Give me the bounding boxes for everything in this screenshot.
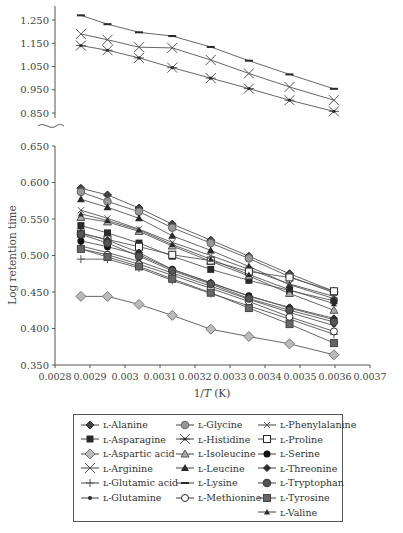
x-tick-label: 0.0032 xyxy=(178,371,211,382)
x-tick-label: 0.0037 xyxy=(353,371,386,382)
legend-marker-icon xyxy=(175,449,195,459)
x-tick-label: 0.0028 xyxy=(38,371,71,382)
legend-item: ʟ-Lysine xyxy=(175,477,238,488)
x-tick-label: 0.003 xyxy=(111,371,138,382)
y-tick-label: 0.450 xyxy=(20,287,49,298)
series-l-alanine xyxy=(77,184,338,295)
legend-label: ʟ-Leucine xyxy=(198,463,245,474)
legend-item: ʟ-Glutamic acid xyxy=(80,477,178,488)
y-tick-label: 0.500 xyxy=(20,250,49,261)
legend-marker-icon xyxy=(80,434,100,444)
legend-marker-icon xyxy=(257,449,277,459)
legend-label: ʟ-Glutamic acid xyxy=(103,477,178,488)
legend-marker-icon xyxy=(80,478,100,488)
legend-label: ʟ-Glycine xyxy=(198,419,242,430)
x-tick-label: 0.0033 xyxy=(213,371,246,382)
y-tick-label: 0.550 xyxy=(20,214,49,225)
legend-label: ʟ-Threonine xyxy=(280,463,337,474)
legend-marker-icon xyxy=(175,463,195,473)
legend-item: ʟ-Leucine xyxy=(175,463,245,474)
legend-marker-icon xyxy=(80,449,100,459)
y-tick-label: 0.650 xyxy=(20,141,49,152)
y-tick-label: 0.850 xyxy=(20,108,49,119)
y-tick-label: 0.350 xyxy=(20,360,49,371)
legend-label: ʟ-Arginine xyxy=(103,463,153,474)
legend-item: ʟ-Arginine xyxy=(80,463,153,474)
y-tick-label: 1.050 xyxy=(20,61,49,72)
legend-marker-icon xyxy=(80,420,100,430)
y-tick-label: 1.150 xyxy=(20,38,49,49)
legend-label: ʟ-Glutamine xyxy=(103,492,161,503)
legend-marker-icon xyxy=(257,493,277,503)
legend-marker-icon xyxy=(80,493,100,503)
legend-marker-icon xyxy=(175,420,195,430)
x-axis-label: 1/T (K) xyxy=(194,387,231,399)
legend-item: ʟ-Methionine xyxy=(175,492,261,503)
legend-marker-icon xyxy=(175,434,195,444)
y-tick-label: 0.600 xyxy=(20,177,49,188)
x-tick-label: 0.0035 xyxy=(283,371,316,382)
legend-item: ʟ-Aspartic acid xyxy=(80,448,175,459)
legend-item: ʟ-Threonine xyxy=(257,463,337,474)
legend-item: ʟ-Serine xyxy=(257,448,320,459)
legend-item: ʟ-Glycine xyxy=(175,419,242,430)
axis-break-icon xyxy=(38,124,64,127)
y-tick-label: 0.950 xyxy=(20,84,49,95)
legend-label: ʟ-Valine xyxy=(280,507,317,518)
legend-item: ʟ-Phenylalanine xyxy=(257,419,356,430)
legend-label: ʟ-Aspartic acid xyxy=(103,448,175,459)
legend-label: ʟ-Proline xyxy=(280,434,323,445)
legend-label: ʟ-Alanine xyxy=(103,419,148,430)
legend-label: ʟ-Isoleucine xyxy=(198,448,256,459)
x-tick-label: 0.0036 xyxy=(318,371,351,382)
x-tick-label: 0.0034 xyxy=(248,371,281,382)
legend-label: ʟ-Tyrosine xyxy=(280,492,330,503)
legend-marker-icon xyxy=(80,463,100,473)
legend-marker-icon xyxy=(257,463,277,473)
legend-item: ʟ-Tryptophan xyxy=(257,477,344,488)
series-l-histidine xyxy=(76,41,339,117)
series-l-arginine xyxy=(76,29,339,105)
legend-item: ʟ-Alanine xyxy=(80,419,148,430)
legend: ʟ-Alanineʟ-Asparagineʟ-Aspartic acidʟ-Ar… xyxy=(73,414,343,522)
y-tick-label: 1.250 xyxy=(20,15,49,26)
legend-label: ʟ-Methionine xyxy=(198,492,261,503)
legend-item: ʟ-Valine xyxy=(257,507,317,518)
y-axis-label: Log retention time xyxy=(6,205,18,305)
legend-item: ʟ-Proline xyxy=(257,434,323,445)
legend-marker-icon xyxy=(175,493,195,503)
legend-marker-icon xyxy=(175,478,195,488)
legend-item: ʟ-Asparagine xyxy=(80,434,166,445)
legend-marker-icon xyxy=(257,478,277,488)
y-tick-label: 0.400 xyxy=(20,323,49,334)
series-l-aspartic-acid xyxy=(76,291,339,359)
legend-label: ʟ-Phenylalanine xyxy=(280,419,356,430)
legend-marker-icon xyxy=(257,434,277,444)
x-tick-label: 0.0029 xyxy=(73,371,106,382)
legend-item: ʟ-Glutamine xyxy=(80,492,161,503)
legend-label: ʟ-Histidine xyxy=(198,434,250,445)
chart: 0.8500.9501.0501.1501.2500.3500.4000.450… xyxy=(0,0,403,410)
legend-marker-icon xyxy=(257,507,277,517)
legend-item: ʟ-Histidine xyxy=(175,434,250,445)
x-tick-label: 0.0031 xyxy=(143,371,176,382)
legend-label: ʟ-Tryptophan xyxy=(280,477,344,488)
legend-marker-icon xyxy=(257,420,277,430)
legend-label: ʟ-Serine xyxy=(280,448,320,459)
legend-item: ʟ-Tyrosine xyxy=(257,492,330,503)
legend-label: ʟ-Asparagine xyxy=(103,434,166,445)
legend-item: ʟ-Isoleucine xyxy=(175,448,256,459)
legend-label: ʟ-Lysine xyxy=(198,477,238,488)
